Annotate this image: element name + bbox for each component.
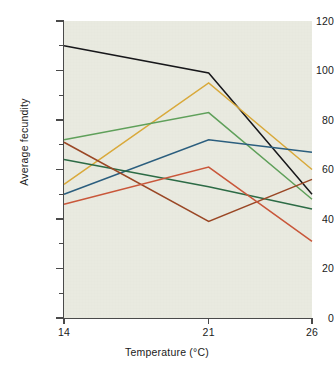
series-gold-line (64, 83, 312, 184)
x-axis-title: Temperature (°C) (0, 346, 334, 358)
chart-series-layer (0, 0, 334, 370)
series-dark-green-line (64, 160, 312, 210)
series-brick-red-line (64, 142, 312, 221)
series-light-green-line (64, 113, 312, 200)
series-orange-red-line (64, 167, 312, 241)
chart-figure: 020406080100120 142126 Average fecundity… (0, 0, 334, 370)
y-axis-title: Average fecundity (18, 62, 30, 222)
